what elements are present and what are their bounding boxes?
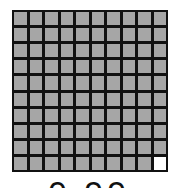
grid-cell-shaded — [92, 12, 105, 25]
grid-cell-shaded — [45, 93, 58, 106]
grid-cell-shaded — [107, 109, 120, 122]
grid-cell-shaded — [30, 93, 43, 106]
grid-cell-shaded — [61, 109, 74, 122]
grid-cell-shaded — [76, 28, 89, 41]
grid-cell-shaded — [138, 60, 151, 73]
grid-cell-shaded — [123, 109, 136, 122]
grid-cell-shaded — [61, 93, 74, 106]
grid-cell-shaded — [123, 12, 136, 25]
grid-cell-shaded — [92, 93, 105, 106]
grid-cell-shaded — [30, 12, 43, 25]
grid-cell-shaded — [92, 141, 105, 154]
grid-cell-shaded — [107, 93, 120, 106]
grid-cell-shaded — [154, 93, 167, 106]
grid-cell-shaded — [14, 44, 27, 57]
grid-cell-shaded — [138, 157, 151, 170]
grid-cell-shaded — [30, 109, 43, 122]
grid-cell-shaded — [14, 12, 27, 25]
grid-cell-shaded — [45, 76, 58, 89]
grid-cell-shaded — [30, 141, 43, 154]
grid-cell-shaded — [123, 157, 136, 170]
grid-cell-shaded — [61, 157, 74, 170]
grid-cell-shaded — [45, 157, 58, 170]
grid-cell-shaded — [154, 28, 167, 41]
grid-cell-shaded — [92, 60, 105, 73]
grid-cell-shaded — [45, 109, 58, 122]
grid-cell-shaded — [138, 44, 151, 57]
grid-cell-shaded — [76, 76, 89, 89]
grid-cell-shaded — [154, 141, 167, 154]
grid-cell-shaded — [154, 12, 167, 25]
grid-cell-shaded — [154, 44, 167, 57]
grid-cell-shaded — [61, 28, 74, 41]
grid-cell-shaded — [123, 141, 136, 154]
grid-cell-shaded — [30, 60, 43, 73]
grid-cell-shaded — [107, 28, 120, 41]
grid-cell-shaded — [45, 12, 58, 25]
grid-cell-shaded — [107, 60, 120, 73]
grid-cell-shaded — [61, 125, 74, 138]
grid-cell-shaded — [76, 109, 89, 122]
grid-cell-shaded — [107, 44, 120, 57]
grid-cell-shaded — [138, 125, 151, 138]
grid-cell-shaded — [14, 93, 27, 106]
grid-cell-shaded — [45, 44, 58, 57]
grid-cell-shaded — [138, 76, 151, 89]
grid-cell-shaded — [61, 44, 74, 57]
grid-cell-shaded — [30, 28, 43, 41]
decimal-caption: 0.99 — [0, 176, 178, 188]
grid-cell-shaded — [123, 93, 136, 106]
grid-cell-shaded — [76, 44, 89, 57]
grid-cell-shaded — [61, 76, 74, 89]
grid-cell-shaded — [138, 141, 151, 154]
grid-cell-shaded — [138, 28, 151, 41]
grid-cell-unshaded — [154, 157, 167, 170]
grid-cell-shaded — [92, 28, 105, 41]
grid-cell-shaded — [45, 141, 58, 154]
grid-cell-shaded — [123, 76, 136, 89]
grid-cell-shaded — [45, 28, 58, 41]
grid-cell-shaded — [76, 60, 89, 73]
grid-cell-shaded — [123, 60, 136, 73]
grid-cell-shaded — [123, 44, 136, 57]
grid-cell-shaded — [123, 28, 136, 41]
grid-cell-shaded — [92, 76, 105, 89]
grid-cell-shaded — [30, 44, 43, 57]
grid-cell-shaded — [154, 109, 167, 122]
grid-cell-shaded — [76, 93, 89, 106]
grid-cell-shaded — [76, 125, 89, 138]
grid-cell-shaded — [92, 109, 105, 122]
grid-cell-shaded — [14, 157, 27, 170]
grid-cell-shaded — [107, 157, 120, 170]
grid-cell-shaded — [61, 12, 74, 25]
grid-cell-shaded — [45, 60, 58, 73]
grid-cell-shaded — [76, 157, 89, 170]
grid-cell-shaded — [76, 12, 89, 25]
grid-cell-shaded — [14, 60, 27, 73]
grid-cell-shaded — [14, 28, 27, 41]
grid-cell-shaded — [61, 141, 74, 154]
grid-cell-shaded — [30, 157, 43, 170]
grid-cell-shaded — [154, 76, 167, 89]
grid-cell-shaded — [107, 76, 120, 89]
grid-cell-shaded — [14, 76, 27, 89]
grid-cell-shaded — [154, 125, 167, 138]
grid-cell-shaded — [92, 44, 105, 57]
grid-cell-shaded — [14, 141, 27, 154]
grid-cell-shaded — [92, 157, 105, 170]
grid-cell-shaded — [92, 125, 105, 138]
grid-cell-shaded — [107, 12, 120, 25]
grid-cell-shaded — [107, 141, 120, 154]
hundred-grid — [12, 10, 168, 172]
grid-cell-shaded — [123, 125, 136, 138]
grid-cell-shaded — [138, 93, 151, 106]
grid-cell-shaded — [30, 125, 43, 138]
grid-cell-shaded — [61, 60, 74, 73]
grid-cell-shaded — [138, 109, 151, 122]
grid-cell-shaded — [107, 125, 120, 138]
grid-cell-shaded — [76, 141, 89, 154]
grid-cell-shaded — [45, 125, 58, 138]
grid-cell-shaded — [138, 12, 151, 25]
grid-cell-shaded — [14, 125, 27, 138]
grid-cell-shaded — [154, 60, 167, 73]
